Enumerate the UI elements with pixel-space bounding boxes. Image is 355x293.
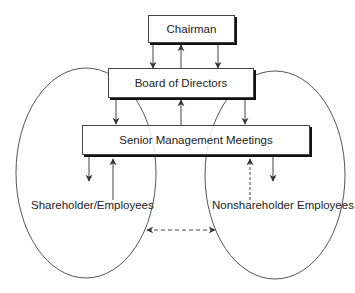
chairman-label: Chairman [167,23,217,35]
senior-management-box: Senior Management Meetings [82,125,310,155]
shareholder-employees-label: Shareholder/Employees [31,199,154,211]
nonshareholder-employees-label: Nonshareholder Employees [212,199,354,211]
nonshareholder-employees-ellipse [205,71,345,279]
senior-management-label: Senior Management Meetings [119,134,272,146]
board-of-directors-label: Board of Directors [135,77,228,89]
board-of-directors-box: Board of Directors [108,68,254,98]
shareholder-employees-ellipse [16,68,156,278]
chairman-box: Chairman [148,15,235,43]
